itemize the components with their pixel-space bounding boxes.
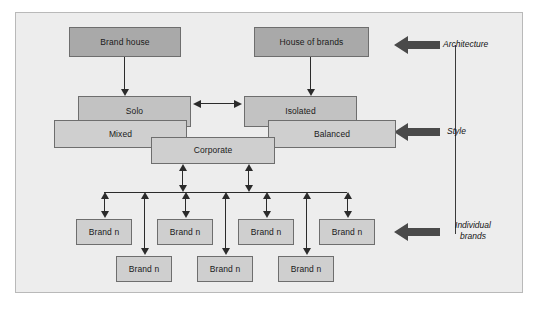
box-brand-upper-1-label: Brand n <box>89 228 119 237</box>
arrowhead-stem-1-up <box>101 192 109 199</box>
arrowhead-corporate-right-down <box>245 185 253 192</box>
arrowhead-stem-7-up <box>344 192 352 199</box>
box-brand-lower-3[interactable]: Brand n <box>278 256 334 282</box>
diagram-canvas: Brand house House of brands Solo Isolate… <box>0 0 539 310</box>
arrowhead-stem-6-down <box>303 248 311 255</box>
box-brand-upper-4[interactable]: Brand n <box>319 219 375 245</box>
box-brand-lower-1[interactable]: Brand n <box>116 256 172 282</box>
box-mixed-label: Mixed <box>109 130 132 139</box>
box-brand-upper-1[interactable]: Brand n <box>76 219 132 245</box>
box-corporate[interactable]: Corporate <box>151 137 275 164</box>
box-brand-house-label: Brand house <box>100 38 149 47</box>
box-brand-upper-3-label: Brand n <box>251 228 281 237</box>
box-corporate-label: Corporate <box>194 146 233 155</box>
box-brand-upper-4-label: Brand n <box>332 228 362 237</box>
arrowhead-stem-4-up <box>222 192 230 199</box>
arrowhead-stem-3-up <box>182 192 190 199</box>
arrowhead-house-of-brands-down <box>307 89 315 96</box>
annotation-spine <box>455 45 456 234</box>
arrowhead-corporate-left-down <box>179 185 187 192</box>
box-brand-upper-2[interactable]: Brand n <box>157 219 213 245</box>
box-isolated-label: Isolated <box>285 107 316 116</box>
box-brand-lower-2-label: Brand n <box>210 265 240 274</box>
box-house-of-brands[interactable]: House of brands <box>254 27 369 57</box>
arrowhead-corporate-left-up <box>179 164 187 171</box>
connector-stem-2 <box>144 194 145 251</box>
connector-stem-4 <box>225 194 226 251</box>
annotation-architecture-label: Architecture <box>443 39 488 50</box>
individual-brands-pointer-icon <box>394 222 440 246</box>
arrowhead-stem-5-up <box>263 192 271 199</box>
arrowhead-brand-house-down <box>121 89 129 96</box>
box-balanced-label: Balanced <box>314 130 350 139</box>
arrowhead-stem-2-down <box>141 248 149 255</box>
arrowhead-stem-4-down <box>222 248 230 255</box>
arrowhead-solo-isolated-right <box>234 100 242 108</box>
box-brand-lower-3-label: Brand n <box>291 265 321 274</box>
diagram-frame: Brand house House of brands Solo Isolate… <box>15 12 523 293</box>
arrowhead-solo-isolated-left <box>193 100 201 108</box>
box-house-of-brands-label: House of brands <box>280 38 344 47</box>
box-brand-upper-2-label: Brand n <box>170 228 200 237</box>
arrowhead-stem-6-up <box>303 192 311 199</box>
annotation-individual-brands-label: Individual brands <box>443 220 503 241</box>
connector-house-of-brands-to-isolated <box>310 57 311 90</box>
arrowhead-stem-1-down <box>101 211 109 218</box>
box-brand-lower-2[interactable]: Brand n <box>197 256 253 282</box>
annotation-style-label: Style <box>447 126 466 137</box>
style-pointer-icon <box>394 122 440 146</box>
connector-brand-house-to-solo <box>124 57 125 90</box>
arrowhead-corporate-right-up <box>245 164 253 171</box>
box-brand-house[interactable]: Brand house <box>69 27 181 57</box>
arrowhead-stem-5-down <box>263 211 271 218</box>
arrowhead-stem-3-down <box>182 211 190 218</box>
connector-solo-isolated <box>200 103 235 104</box>
architecture-pointer-icon <box>394 35 440 59</box>
box-solo-label: Solo <box>126 107 143 116</box>
connector-stem-6 <box>306 194 307 251</box>
arrowhead-stem-2-up <box>141 192 149 199</box>
arrowhead-stem-7-down <box>344 211 352 218</box>
box-brand-upper-3[interactable]: Brand n <box>238 219 294 245</box>
box-brand-lower-1-label: Brand n <box>129 265 159 274</box>
box-balanced[interactable]: Balanced <box>268 120 396 148</box>
